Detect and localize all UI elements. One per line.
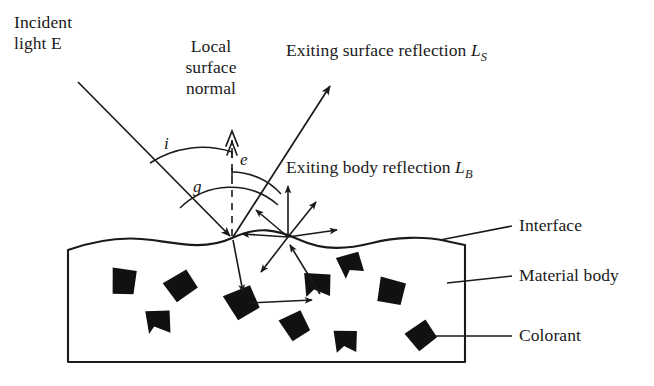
angle-arc-e — [232, 172, 281, 194]
surface-reflection-symbol: L — [471, 40, 481, 60]
angle-label-e: e — [240, 150, 248, 170]
colorant-particle — [299, 269, 334, 302]
material-body-outline — [68, 245, 465, 362]
surface-reflection-label: Exiting surface reflection LS — [286, 40, 487, 68]
incident-light-label: Incident light E — [14, 12, 72, 54]
angle-label-g: g — [193, 177, 202, 197]
material-body-label: Material body — [519, 265, 619, 286]
local-surface-normal-label: Local surface normal — [163, 36, 259, 99]
leader-material-body — [447, 276, 512, 283]
incident-light-line2: light E — [14, 33, 62, 53]
colorant-particle — [105, 264, 141, 300]
colorant-particle — [372, 274, 409, 310]
body-reflection-text: Exiting body reflection — [286, 157, 455, 177]
colorant-particle — [278, 309, 312, 343]
surface-reflection-subscript: S — [481, 50, 487, 64]
angle-label-i: i — [164, 134, 169, 154]
colorant-particle — [142, 307, 173, 337]
body-scatter-rays — [242, 186, 337, 272]
surface-normal-axis — [226, 131, 238, 236]
body-reflection-subscript: B — [465, 167, 473, 181]
normal-line1: Local — [191, 36, 231, 56]
incident-light-line1: Incident — [14, 12, 72, 32]
leader-lines — [434, 226, 512, 336]
colorant-particle — [403, 318, 439, 353]
angle-arc-i — [150, 147, 232, 163]
normal-line2: surface — [185, 57, 236, 77]
leader-interface — [440, 226, 512, 240]
colorant-particle — [335, 251, 364, 279]
angle-arcs — [150, 147, 281, 208]
surface-reflection-text: Exiting surface reflection — [286, 40, 471, 60]
interface-curve — [68, 230, 465, 250]
body-reflection-label: Exiting body reflection LB — [286, 157, 473, 185]
colorant-particles — [105, 251, 439, 356]
light-reflection-diagram: Incident light E Local surface normal Ex… — [0, 0, 654, 386]
colorant-particle — [161, 268, 200, 305]
body-reflection-symbol: L — [455, 157, 465, 177]
interface-label: Interface — [519, 215, 582, 236]
normal-line3: normal — [186, 78, 236, 98]
colorant-particle — [330, 327, 360, 356]
colorant-label: Colorant — [519, 325, 581, 346]
incident-ray — [78, 82, 230, 236]
